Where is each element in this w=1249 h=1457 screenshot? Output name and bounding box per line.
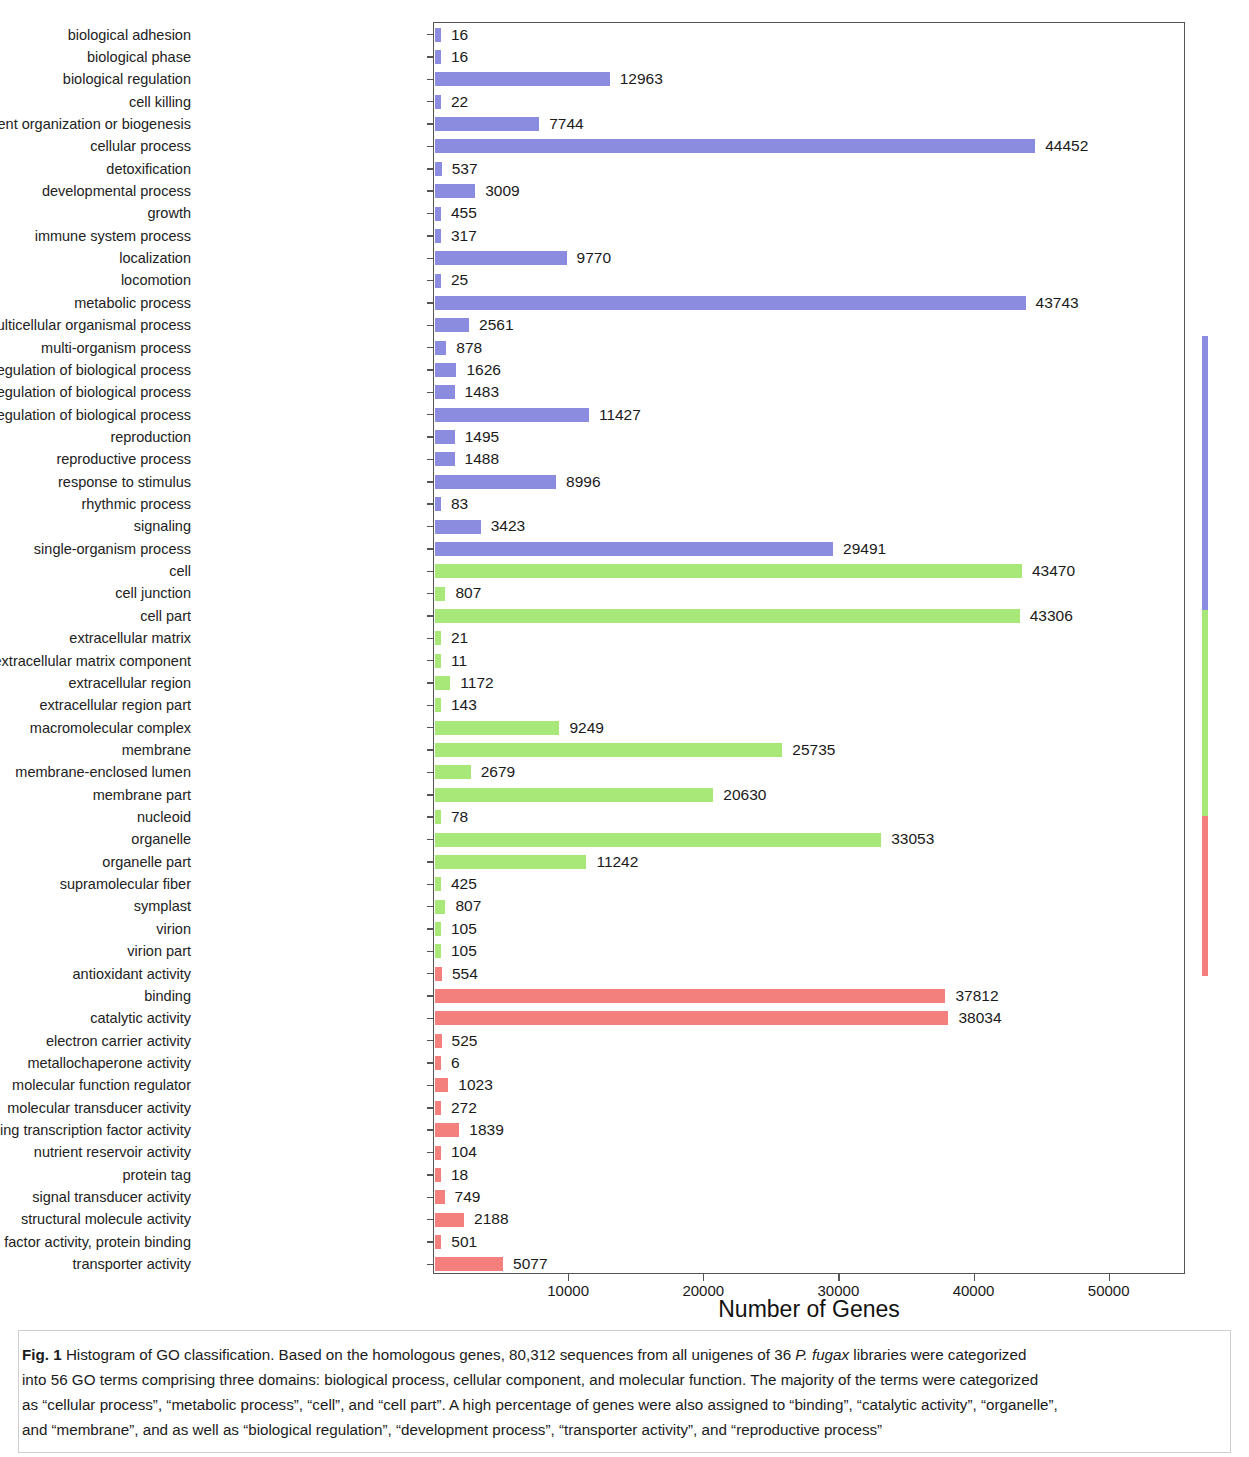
bar: [435, 743, 783, 757]
bar-value-label: 33053: [891, 828, 934, 850]
bar: [435, 363, 457, 377]
category-label: signaling: [0, 515, 191, 537]
y-tick-mark: [427, 325, 434, 326]
bar-value-label: 537: [452, 158, 478, 180]
category-label: nutrient reservoir activity: [0, 1141, 191, 1163]
caption-line-3: as “cellular process”, “metabolic proces…: [22, 1392, 1231, 1417]
bar-row: organelle part11242: [0, 851, 1249, 873]
y-tick-mark: [427, 593, 434, 594]
category-label: cell: [0, 560, 191, 582]
bar: [435, 296, 1026, 310]
legend-color-bar: [1202, 610, 1208, 816]
category-label: electron carrier activity: [0, 1030, 191, 1052]
species-name: P. fugax: [795, 1346, 849, 1363]
y-tick-mark: [427, 928, 434, 929]
bar-row: nucleoid78: [0, 806, 1249, 828]
bar-value-label: 425: [451, 873, 477, 895]
bar-row: molecular function regulator1023: [0, 1074, 1249, 1096]
y-tick-mark: [427, 190, 434, 191]
bar-row: organelle33053: [0, 828, 1249, 850]
category-label: positive regulation of biological proces…: [0, 381, 191, 403]
bar-row: metabolic process43743: [0, 292, 1249, 314]
category-label: symplast: [0, 895, 191, 917]
y-tick-mark: [427, 1264, 434, 1265]
category-label: structural molecule activity: [0, 1208, 191, 1230]
bar-row: membrane-enclosed lumen2679: [0, 761, 1249, 783]
bar-value-label: 455: [451, 202, 477, 224]
y-tick-mark: [427, 1107, 434, 1108]
bar-value-label: 3009: [485, 180, 519, 202]
bar-value-label: 3423: [491, 515, 525, 537]
bar: [435, 900, 446, 914]
category-label: molecular function regulator: [0, 1074, 191, 1096]
y-tick-mark: [427, 146, 434, 147]
bar-value-label: 18: [451, 1164, 468, 1186]
bar-value-label: 43470: [1032, 560, 1075, 582]
bar-row: virion105: [0, 918, 1249, 940]
bar-row: localization9770: [0, 247, 1249, 269]
bar-value-label: 105: [451, 940, 477, 962]
category-label: molecular transducer activity: [0, 1097, 191, 1119]
category-label: nucleoid: [0, 806, 191, 828]
category-label: cell junction: [0, 582, 191, 604]
category-label: detoxification: [0, 158, 191, 180]
x-tick-mark: [703, 1274, 704, 1281]
bar-value-label: 83: [451, 493, 468, 515]
bar-row: negative regulation of biological proces…: [0, 359, 1249, 381]
bar: [435, 1235, 442, 1249]
bar-row: metallochaperone activity6: [0, 1052, 1249, 1074]
category-label: extracellular region part: [0, 694, 191, 716]
category-label: virion part: [0, 940, 191, 962]
y-tick-mark: [427, 682, 434, 683]
bar: [435, 1011, 949, 1025]
bar: [435, 251, 567, 265]
y-tick-mark: [427, 794, 434, 795]
bar-value-label: 9249: [569, 717, 603, 739]
bar-row: biological regulation12963: [0, 68, 1249, 90]
bar-row: extracellular matrix component11: [0, 650, 1249, 672]
bar: [435, 274, 442, 288]
bar-row: response to stimulus8996: [0, 471, 1249, 493]
x-tick-mark: [838, 1274, 839, 1281]
bar: [435, 452, 455, 466]
category-label: growth: [0, 202, 191, 224]
bar-value-label: 11427: [599, 404, 641, 426]
bar: [435, 1056, 442, 1070]
bar-value-label: 29491: [843, 538, 886, 560]
x-tick-mark: [974, 1274, 975, 1281]
y-tick-mark: [427, 861, 434, 862]
category-label: metallochaperone activity: [0, 1052, 191, 1074]
category-label: biological phase: [0, 46, 191, 68]
y-tick-mark: [427, 459, 434, 460]
bar-row: locomotion25: [0, 269, 1249, 291]
bar: [435, 1123, 460, 1137]
bar-value-label: 11: [451, 650, 467, 672]
y-tick-mark: [427, 436, 434, 437]
bar-row: molecular transducer activity272: [0, 1097, 1249, 1119]
bar-row: virion part105: [0, 940, 1249, 962]
bar-row: biological phase16: [0, 46, 1249, 68]
y-tick-mark: [427, 638, 434, 639]
bar-row: multicellular organismal process2561: [0, 314, 1249, 336]
bar-row: cellular process44452: [0, 135, 1249, 157]
bar: [435, 698, 442, 712]
bar-row: protein tag18: [0, 1164, 1249, 1186]
bar-row: macromolecular complex9249: [0, 717, 1249, 739]
legend-label: [1210, 816, 1232, 976]
bar-value-label: 749: [455, 1186, 481, 1208]
category-label: supramolecular fiber: [0, 873, 191, 895]
bar-value-label: 1626: [466, 359, 500, 381]
bar: [435, 1146, 442, 1160]
category-label: macromolecular complex: [0, 717, 191, 739]
y-tick-mark: [427, 1219, 434, 1220]
bar: [435, 721, 560, 735]
bar-value-label: 1488: [465, 448, 499, 470]
y-tick-mark: [427, 414, 434, 415]
bar: [435, 542, 834, 556]
bar-row: immune system process317: [0, 225, 1249, 247]
y-tick-mark: [427, 548, 434, 549]
bar-row: catalytic activity38034: [0, 1007, 1249, 1029]
y-tick-mark: [427, 79, 434, 80]
bar-value-label: 16: [451, 24, 468, 46]
y-tick-mark: [427, 1174, 434, 1175]
